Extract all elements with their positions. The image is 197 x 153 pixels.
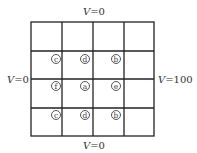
boundary-right-label: V=100 — [158, 75, 193, 85]
node-c-top: c — [51, 54, 61, 64]
node-b-bottom: b — [111, 110, 121, 120]
node-e: e — [111, 81, 121, 91]
node-d-top: d — [80, 54, 90, 64]
node-b-top: b — [111, 54, 121, 64]
boundary-bottom-label: V=0 — [83, 141, 105, 151]
node-c-bottom: c — [51, 110, 61, 120]
boundary-top-label: V=0 — [83, 7, 105, 17]
boundary-left-label: V=0 — [7, 75, 29, 85]
node-a: a — [80, 81, 90, 91]
node-f: f — [51, 81, 61, 91]
node-d-bottom: d — [80, 110, 90, 120]
